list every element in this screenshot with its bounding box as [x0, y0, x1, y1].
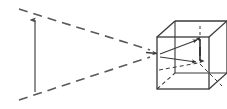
pinhole-camera-figure — [0, 0, 227, 109]
figure-background — [0, 0, 227, 109]
pinhole-camera-diagram-canvas — [0, 0, 227, 109]
